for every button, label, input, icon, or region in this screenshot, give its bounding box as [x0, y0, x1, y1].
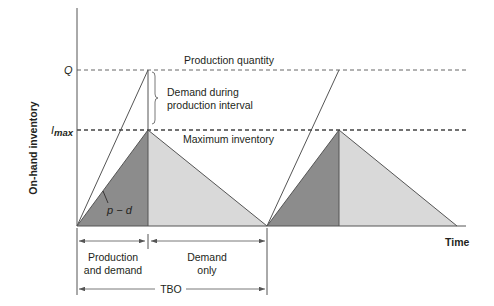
brace-icon [152, 72, 158, 124]
demand-during-label-1: Demand during [167, 86, 239, 98]
demand-during-label-2: production interval [167, 99, 253, 111]
tbo-label: TBO [160, 283, 182, 295]
production-and-demand-label-1: Production [88, 251, 138, 263]
maximum-inventory-label: Maximum inventory [183, 133, 275, 145]
demand-only-label-2: only [197, 264, 217, 276]
imax-tick-label: Imax [51, 124, 74, 138]
inventory-diagram: On-hand inventory Time Q Imax Production… [0, 0, 494, 306]
q-tick-label: Q [64, 64, 73, 76]
y-axis-label: On-hand inventory [27, 101, 39, 194]
demand-only-label-1: Demand [187, 251, 227, 263]
production-and-demand-label-2: and demand [84, 264, 143, 276]
slope-label: p − d [106, 204, 133, 216]
x-axis-label: Time [445, 236, 469, 248]
imax-sub: max [54, 127, 74, 138]
production-quantity-label: Production quantity [184, 54, 275, 66]
